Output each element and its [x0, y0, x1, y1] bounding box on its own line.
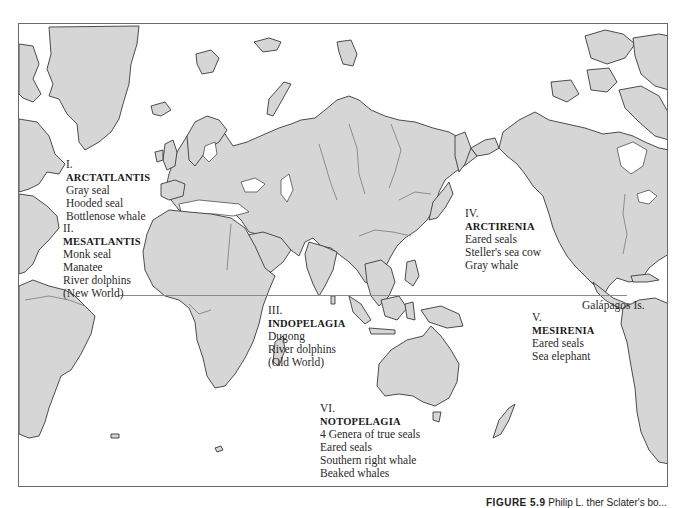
species-label: Dugong	[268, 330, 345, 343]
south-america-east	[621, 298, 668, 464]
species-label: 4 Genera of true seals	[320, 428, 420, 441]
new-zealand	[493, 404, 515, 438]
species-label: River dolphins	[63, 274, 141, 287]
sulawesi	[405, 302, 415, 320]
region-name: MESATLANTIS	[63, 235, 141, 248]
species-label: Sea elephant	[532, 350, 594, 363]
java	[369, 328, 395, 334]
species-label: Steller's sea cow	[465, 246, 541, 259]
region-mesatlantis: II. MESATLANTIS Monk seal Manatee River …	[63, 222, 141, 300]
species-label: Gray whale	[465, 259, 541, 272]
franz-josef	[254, 38, 281, 52]
region-numeral: IV.	[465, 207, 541, 220]
galapagos-label: Galápagos Is.	[582, 299, 645, 311]
region-name: INDOPELAGIA	[268, 317, 345, 330]
region-numeral: II.	[63, 222, 141, 235]
india	[305, 242, 337, 296]
region-name: ARCTIRENIA	[465, 220, 541, 233]
region-arctatlantis: I. ARCTATLANTIS Gray seal Hooded seal Bo…	[66, 158, 150, 223]
arctic-island-4	[551, 80, 579, 102]
species-label: Southern right whale	[320, 454, 420, 467]
iceland	[151, 102, 171, 116]
species-label: Eared seals	[320, 441, 420, 454]
borneo	[381, 296, 407, 320]
region-numeral: VI.	[320, 402, 420, 415]
sumatra	[349, 296, 371, 324]
species-label: River dolphins	[268, 343, 345, 356]
region-notopelagia: VI. NOTOPELAGIA 4 Genera of true seals E…	[320, 402, 420, 480]
north-america-east-edge	[19, 194, 59, 274]
south-georgia	[215, 446, 223, 452]
figure-number: FIGURE 5.9	[486, 497, 545, 508]
species-label: Monk seal	[63, 248, 141, 261]
tasmania	[433, 412, 441, 422]
cuba	[631, 274, 659, 282]
arctic-island-1	[585, 30, 635, 64]
species-label: Manatee	[63, 261, 141, 274]
species-label: (New World)	[63, 287, 141, 300]
labrador	[19, 119, 65, 192]
species-label: Hooded seal	[66, 197, 150, 210]
region-mesirenia: V. MESIRENIA Eared seals Sea elephant	[532, 311, 594, 363]
caption-text: Philip L. ther Sclater's bo...	[548, 497, 667, 508]
species-label: Eared seals	[465, 233, 541, 246]
region-numeral: III.	[268, 304, 345, 317]
species-label: Gray seal	[66, 184, 150, 197]
philippines	[405, 260, 419, 286]
species-label: Beaked whales	[320, 467, 420, 480]
ireland	[155, 150, 163, 162]
south-america-west	[19, 280, 95, 438]
equator-line	[118, 295, 627, 296]
region-indopelagia: III. INDOPELAGIA Dugong River dolphins (…	[268, 304, 345, 369]
species-label: Eared seals	[532, 337, 594, 350]
arctic-island-3	[587, 68, 617, 92]
severnaya-zemlya	[337, 40, 357, 66]
sakhalin-kamchatka	[455, 132, 471, 172]
chukotka	[471, 138, 499, 156]
region-name: ARCTATLANTIS	[66, 171, 150, 184]
new-guinea	[421, 306, 463, 328]
arctic-island-2	[633, 34, 668, 90]
region-numeral: I.	[66, 158, 150, 171]
region-name: MESIRENIA	[532, 324, 594, 337]
greenland	[47, 26, 139, 150]
falklands	[111, 434, 119, 438]
canada-east-edge	[19, 44, 41, 102]
region-name: NOTOPELAGIA	[320, 415, 420, 428]
svalbard	[196, 50, 219, 74]
species-label: (Old World)	[268, 356, 345, 369]
baffin-island	[619, 86, 668, 140]
novaya-zemlya	[267, 82, 291, 116]
region-numeral: V.	[532, 311, 594, 324]
great-britain	[163, 140, 177, 170]
sri-lanka	[331, 296, 335, 304]
australia	[377, 326, 459, 406]
figure-caption: FIGURE 5.9 Philip L. ther Sclater's bo..…	[486, 497, 667, 508]
region-arctirenia: IV. ARCTIRENIA Eared seals Steller's sea…	[465, 207, 541, 272]
